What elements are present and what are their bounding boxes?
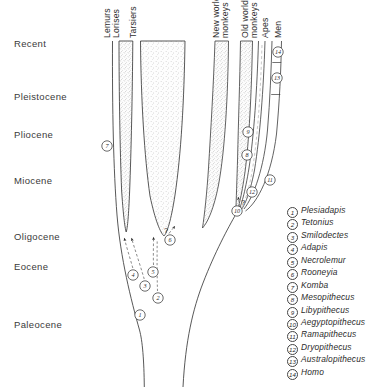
- legend-item-name: Necrolemur: [299, 255, 346, 266]
- legend-item: 12Dryopithecus: [286, 342, 386, 354]
- legend-item: 5Necrolemur: [286, 255, 386, 267]
- legend-item-name: Ramapithecus: [299, 329, 356, 340]
- fossil-marker: 5: [148, 267, 158, 277]
- legend-item-number: 10: [286, 319, 299, 330]
- lineage-label: New worldmonkeys: [212, 0, 231, 38]
- lineage-label: Tarsiers: [129, 6, 138, 38]
- lineage-label-line: monkeys: [250, 0, 259, 38]
- legend-item-name: Libypithecus: [299, 305, 349, 316]
- legend-item-number: 11: [286, 331, 299, 342]
- legend-item: 14Homo: [286, 367, 386, 379]
- legend-item: 9Libypithecus: [286, 305, 386, 317]
- legend-item-number: 1: [286, 207, 299, 218]
- legend-item: 10Aegyptopithecus: [286, 317, 386, 329]
- legend-item-name: Aegyptopithecus: [299, 317, 365, 328]
- epoch-label: Eocene: [14, 261, 48, 272]
- legend-item-number: 7: [286, 282, 299, 293]
- legend-item-number: 5: [286, 257, 299, 268]
- fossil-marker-number: 10: [234, 207, 241, 214]
- epoch-label: Oligocene: [14, 231, 60, 242]
- lineage-broad-stippled-column: [141, 41, 186, 236]
- fossil-marker: 11: [265, 175, 275, 185]
- fossil-marker-number: 2: [156, 294, 159, 301]
- fossil-marker-number: 12: [249, 188, 255, 195]
- phylogeny-diagram: 7432561891011121314 ?? RecentPleistocene…: [0, 0, 388, 387]
- legend-item-name: Rooneyia: [299, 267, 338, 278]
- fossil-marker-number: 14: [275, 48, 281, 55]
- legend-item-name: Adapis: [299, 242, 328, 253]
- legend-item-name: Komba: [299, 280, 328, 291]
- fossil-marker: 4: [128, 270, 138, 280]
- lineage-label: LemursLorises: [103, 8, 122, 38]
- legend-item: 11Ramapithecus: [286, 329, 386, 341]
- fossil-marker-number: 11: [267, 176, 273, 183]
- legend-item-number: 6: [286, 269, 299, 280]
- lineage-label-line: monkeys: [221, 0, 230, 38]
- fossil-marker-number: 5: [151, 268, 154, 275]
- uncertainty-question-mark: ?: [164, 226, 168, 235]
- legend-item-number: 3: [286, 232, 299, 243]
- legend-item-name: Plesiadapis: [299, 205, 345, 216]
- fossil-marker: 2: [153, 293, 163, 303]
- fossil-marker-number: 3: [142, 282, 146, 289]
- fossil-marker: 6: [165, 235, 175, 245]
- fossil-marker: 9: [243, 127, 253, 137]
- legend-item: 2Tetonius: [286, 217, 386, 229]
- lineage-label: Apes: [261, 18, 270, 38]
- legend-item-number: 2: [286, 219, 299, 230]
- fossil-marker: 8: [242, 150, 252, 160]
- lineage-label-line: Tarsiers: [129, 6, 138, 38]
- legend-item: 3Smilodectes: [286, 230, 386, 242]
- legend-item-name: Smilodectes: [299, 230, 348, 241]
- fossil-marker: 1: [135, 310, 145, 320]
- epoch-label: Pliocene: [14, 129, 53, 140]
- lineage-new-world-monkeys: [203, 41, 229, 228]
- legend-item-name: Dryopithecus: [299, 342, 352, 353]
- fossil-marker-number: 13: [274, 74, 280, 81]
- fossil-marker: 7: [102, 141, 112, 151]
- fossil-marker: 13: [272, 73, 282, 83]
- legend-item-number: 8: [286, 294, 299, 305]
- lineage-label: Men: [274, 21, 283, 38]
- fossil-legend: 1Plesiadapis2Tetonius3Smilodectes4Adapis…: [286, 205, 386, 379]
- legend-item: 1Plesiadapis: [286, 205, 386, 217]
- legend-item-name: Homo: [299, 367, 324, 378]
- legend-item-name: Australopithecus: [299, 354, 365, 365]
- lineage-label-line: Lorises: [112, 8, 121, 38]
- legend-item-number: 12: [286, 344, 299, 355]
- epoch-label: Pleistocene: [14, 91, 67, 102]
- uncertainty-question-mark: ?: [241, 198, 245, 207]
- epoch-label: Paleocene: [14, 319, 62, 330]
- fossil-link-arrows: [124, 197, 240, 291]
- legend-item-number: 9: [286, 307, 299, 318]
- legend-item-name: Mesopithecus: [299, 292, 354, 303]
- legend-item-name: Tetonius: [299, 217, 334, 228]
- legend-item-number: 14: [286, 369, 299, 380]
- fossil-marker: 3: [140, 281, 150, 291]
- legend-item-number: 4: [286, 244, 299, 255]
- fossil-marker: 12: [247, 187, 257, 197]
- fossil-marker-number: 4: [131, 271, 134, 278]
- fossil-marker: 10: [232, 206, 242, 216]
- lineage-label: Old worldmonkeys: [241, 0, 260, 38]
- lineage-tarsiers: [119, 41, 133, 232]
- legend-item-number: 13: [286, 356, 299, 367]
- lineage-label-line: Apes: [261, 18, 270, 38]
- legend-item: 7Komba: [286, 280, 386, 292]
- legend-item: 4Adapis: [286, 242, 386, 254]
- legend-item: 6Rooneyia: [286, 267, 386, 279]
- legend-item: 13Australopithecus: [286, 354, 386, 366]
- lineage-label-line: Men: [274, 21, 283, 38]
- epoch-label: Miocene: [14, 175, 52, 186]
- fossil-marker-number: 9: [246, 128, 249, 135]
- fossil-marker-number: 1: [138, 311, 141, 318]
- fossil-marker: 14: [273, 47, 283, 57]
- epoch-label: Recent: [14, 38, 46, 49]
- legend-item: 8Mesopithecus: [286, 292, 386, 304]
